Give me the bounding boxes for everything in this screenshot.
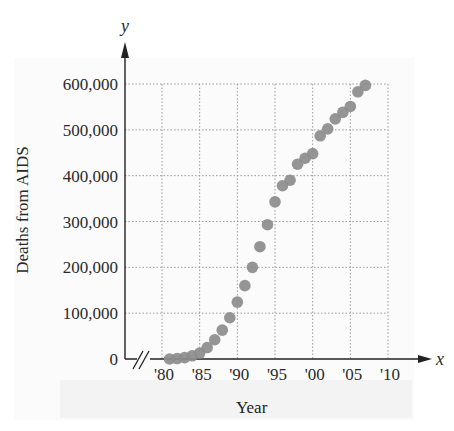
x-tick-label: '85 — [192, 365, 212, 384]
data-point — [345, 101, 357, 113]
gridlines — [125, 84, 388, 359]
data-point — [322, 123, 334, 135]
y-tick-label: 200,000 — [63, 258, 118, 277]
y-axis-label: Deaths from AIDS — [8, 120, 38, 300]
data-point — [269, 196, 281, 208]
x-axis-label: Year — [236, 398, 267, 418]
x-tick-label: '80 — [154, 365, 174, 384]
y-axis-symbol: y — [119, 16, 129, 36]
data-point — [216, 324, 228, 336]
scatter-plot: 0100,000200,000300,000400,000500,000600,… — [0, 0, 454, 431]
data-point — [307, 148, 319, 160]
data-point — [232, 296, 244, 308]
data-point — [209, 334, 221, 346]
data-point — [360, 80, 372, 92]
data-point — [262, 219, 274, 231]
y-tick-label: 600,000 — [63, 75, 118, 94]
data-point — [239, 280, 251, 292]
data-point — [254, 241, 266, 253]
x-tick-label: '10 — [380, 365, 400, 384]
data-point — [247, 262, 259, 274]
x-tick-label: '90 — [229, 365, 249, 384]
x-axis-arrow-icon — [418, 355, 432, 363]
x-tick-label: '95 — [267, 365, 287, 384]
y-tick-label: 500,000 — [63, 121, 118, 140]
y-axis-label-text: Deaths from AIDS — [13, 146, 32, 273]
data-point — [224, 312, 236, 324]
x-axis-symbol: x — [435, 349, 444, 369]
y-axis-arrow-icon — [121, 42, 129, 58]
x-tick-label: '00 — [305, 365, 325, 384]
tick-labels: 0100,000200,000300,000400,000500,000600,… — [63, 16, 444, 384]
y-tick-label: 300,000 — [63, 213, 118, 232]
data-point — [284, 174, 296, 186]
x-tick-label: '05 — [342, 365, 362, 384]
data-points — [164, 80, 371, 365]
y-tick-label: 400,000 — [63, 167, 118, 186]
y-tick-label: 100,000 — [63, 304, 118, 323]
y-tick-label: 0 — [110, 350, 119, 369]
